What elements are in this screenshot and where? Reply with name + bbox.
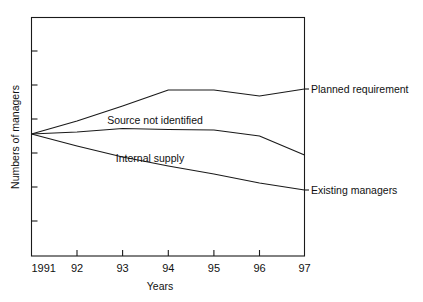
- y-axis-title: Numbers of managers: [9, 85, 21, 189]
- series-label-existing-managers: Existing managers: [311, 184, 397, 196]
- x-axis-title: Years: [147, 280, 173, 292]
- x-tick-label-93: 93: [116, 262, 128, 274]
- annotation-source-not-identified: Source not identified: [107, 114, 203, 126]
- x-tick-label-92: 92: [71, 262, 83, 274]
- chart-canvas: Source not identified Internal supply Pl…: [0, 0, 423, 302]
- x-axis-tick-labels: 1991 92 93 94 95 96 97: [32, 262, 311, 274]
- x-tick-label-96: 96: [253, 262, 265, 274]
- series-label-leaders: [305, 89, 310, 190]
- x-tick-label-1991: 1991: [32, 262, 56, 274]
- x-tick-label-97: 97: [298, 262, 310, 274]
- line-chart: Source not identified Internal supply Pl…: [0, 0, 423, 302]
- annotation-internal-supply: Internal supply: [116, 152, 185, 164]
- x-tick-label-94: 94: [162, 262, 174, 274]
- x-tick-label-95: 95: [208, 262, 220, 274]
- plot-frame: [32, 18, 305, 257]
- series-label-planned-requirement: Planned requirement: [311, 83, 409, 95]
